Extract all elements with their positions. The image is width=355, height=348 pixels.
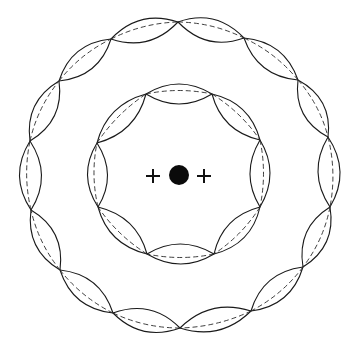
wave-crest-outer [251,267,303,311]
plus-charge-right-icon [197,169,211,183]
wave-dashed-line [214,207,260,254]
wave-dashed-line [31,210,60,270]
wave-dashed-line [178,22,244,38]
wave-dashed-line [60,270,113,313]
wave-lobe [212,94,260,140]
wave-crest-inner [97,143,108,207]
wave-lobe [59,39,111,81]
nucleus-dot [169,165,189,185]
wave-dashed-line [260,140,264,207]
wave-crest-outer [98,207,147,254]
wave-crest-outer [298,80,329,137]
wave-lobe [113,308,180,332]
wave-crest-inner [212,94,260,140]
wave-lobe [250,140,270,207]
wave-dashed-line [147,254,214,258]
wave-lobe [30,210,60,270]
wave-dashed-line [27,141,31,210]
wave-dashed-line [98,207,147,254]
wave-lobe [19,141,41,210]
wave-crest-outer [113,313,180,333]
wave-crest-inner [214,207,260,254]
wave-crest-outer [59,39,111,81]
wave-crest-outer [244,38,298,80]
wave-lobe [98,207,147,254]
wave-crest-inner [146,94,212,104]
wave-crest-inner [302,207,330,267]
wave-dashed-line [244,38,298,80]
wave-crest-inner [180,307,251,328]
wave-dashed-line [303,207,330,267]
wave-crest-inner [178,22,244,42]
wave-dashed-line [146,91,212,95]
wave-crest-inner [31,210,61,270]
wave-dashed-line [298,80,328,137]
wave-crest-inner [251,267,303,311]
wave-lobe [180,307,251,332]
wave-dashed-line [212,94,260,140]
wave-crest-outer [328,137,340,207]
plus-charge-left-icon [146,169,160,183]
wave-crest-inner [250,140,260,207]
wave-lobe [29,81,59,141]
wave-dashed-line [59,39,111,81]
wave-dashed-line [113,313,180,328]
wave-lobe [87,143,107,207]
wave-lobe [147,244,214,264]
wave-dashed-line [328,137,333,207]
wave-dashed-line [30,81,59,141]
wave-crest-outer [180,311,251,332]
wave-lobe [60,270,113,313]
wave-dashed-line [97,94,146,143]
wave-lobe [318,137,340,207]
wave-lobe [302,207,331,267]
wave-crest-outer [178,18,244,38]
wave-crest-outer [30,210,60,270]
wave-lobe [111,18,178,43]
wave-crest-inner [60,270,113,313]
wave-crest-inner [97,94,146,143]
wave-crest-outer [60,270,113,313]
wave-lobe [251,267,303,311]
wave-crest-inner [147,244,214,254]
nucleus-group [146,165,211,185]
wave-lobe [97,94,146,143]
wave-crest-outer [303,207,331,267]
wave-crest-inner [59,39,111,81]
standing-wave-diagram [0,0,355,348]
wave-lobe [178,18,244,42]
wave-crest-inner [98,207,147,254]
wave-lobe [214,207,260,254]
wave-crest-outer [212,94,260,140]
wave-dashed-line [94,143,98,207]
wave-crest-outer [29,81,59,141]
wave-crest-inner [318,137,330,207]
wave-lobe [244,38,298,80]
wave-lobe [146,84,212,104]
wave-crest-inner [30,81,60,141]
wave-crest-outer [214,207,260,254]
wave-lobe [297,80,328,137]
wave-crest-inner [297,80,328,137]
wave-crest-inner [244,38,298,80]
wave-crest-inner [30,141,42,210]
wave-crest-inner [113,308,180,328]
wave-crest-inner [111,22,178,43]
wave-crest-outer [97,94,146,143]
wave-crest-outer [111,18,178,39]
wave-dashed-line [251,267,303,311]
